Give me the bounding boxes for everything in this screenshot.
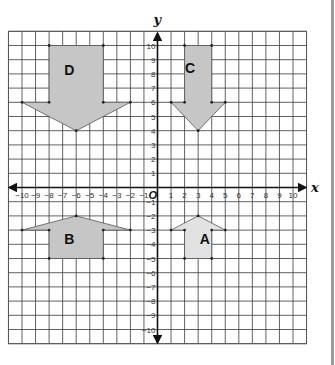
vertex-dot	[210, 44, 213, 47]
vertex-dot	[102, 229, 105, 232]
x-tick-label: −3	[112, 191, 122, 200]
vertex-dot	[224, 229, 227, 232]
y-tick-label: 3	[151, 141, 156, 150]
y-tick-label: 10	[147, 42, 156, 51]
y-tick-label: 8	[151, 70, 156, 79]
vertex-dot	[48, 257, 51, 260]
x-tick-label: 10	[289, 191, 298, 200]
shape-label: A	[200, 231, 210, 247]
x-tick-label: −8	[45, 191, 55, 200]
vertex-dot	[129, 101, 132, 104]
page-edge-bar	[331, 0, 334, 365]
vertex-dot	[183, 44, 186, 47]
vertex-dot	[102, 44, 105, 47]
y-tick-label: −3	[146, 226, 156, 235]
vertex-dot	[48, 44, 51, 47]
coordinate-plane: DCBA −10−9−8−7−6−5−4−3−2−112345678910−10…	[0, 0, 335, 365]
vertex-dot	[210, 101, 213, 104]
vertex-dot	[197, 215, 200, 218]
vertex-dot	[183, 101, 186, 104]
shapes: DCBA	[21, 44, 227, 260]
x-tick-label: 5	[223, 191, 228, 200]
x-tick-label: −4	[99, 191, 109, 200]
vertex-dot	[21, 101, 24, 104]
vertex-dot	[102, 257, 105, 260]
x-tick-label: 7	[250, 191, 255, 200]
y-tick-label: 4	[151, 127, 156, 136]
y-tick-label: 6	[151, 98, 156, 107]
x-tick-label: 3	[196, 191, 201, 200]
y-tick-label: −7	[146, 283, 156, 292]
x-tick-label: −6	[72, 191, 82, 200]
y-tick-label: 2	[151, 155, 156, 164]
y-tick-label: 7	[151, 84, 156, 93]
y-tick-label: 1	[151, 169, 156, 178]
vertex-dot	[75, 129, 78, 132]
x-tick-label: 4	[209, 191, 214, 200]
x-tick-label: −2	[126, 191, 136, 200]
vertex-dot	[48, 229, 51, 232]
vertex-dot	[183, 229, 186, 232]
vertex-dot	[129, 229, 132, 232]
vertex-dot	[170, 101, 173, 104]
vertex-dot	[75, 215, 78, 218]
y-tick-label: −10	[142, 326, 156, 335]
shape-a: A	[170, 215, 227, 260]
x-tick-label: 9	[277, 191, 282, 200]
shape-label: C	[185, 60, 195, 76]
x-tick-label: −9	[31, 191, 41, 200]
x-tick-label: −7	[58, 191, 68, 200]
x-tick-label: 6	[237, 191, 242, 200]
vertex-dot	[183, 257, 186, 260]
vertex-dot	[210, 229, 213, 232]
y-tick-label: −9	[146, 311, 156, 320]
shape-label: B	[64, 231, 74, 247]
shape-polygon	[171, 216, 225, 259]
shape-label: D	[64, 62, 74, 78]
origin-label: O	[149, 189, 158, 201]
y-tick-label: 5	[151, 113, 156, 122]
y-tick-label: −8	[146, 297, 156, 306]
y-tick-label: −4	[146, 240, 156, 249]
vertex-dot	[102, 101, 105, 104]
y-tick-label: −6	[146, 269, 156, 278]
x-axis-label: x	[310, 180, 319, 195]
vertex-dot	[170, 229, 173, 232]
x-tick-label: 8	[264, 191, 269, 200]
x-tick-label: 1	[169, 191, 174, 200]
y-tick-label: 9	[151, 56, 156, 65]
y-axis-label: y	[153, 12, 163, 27]
x-tick-label: −5	[85, 191, 95, 200]
shape-polygon	[22, 216, 130, 259]
vertex-dot	[48, 101, 51, 104]
vertex-dot	[210, 257, 213, 260]
x-tick-label: 2	[182, 191, 187, 200]
x-tick-label: −10	[15, 191, 29, 200]
y-tick-label: −2	[146, 212, 156, 221]
vertex-dot	[21, 229, 24, 232]
vertex-dot	[224, 101, 227, 104]
y-tick-label: −5	[146, 255, 156, 264]
vertex-dot	[197, 129, 200, 132]
shape-b: B	[21, 215, 132, 260]
